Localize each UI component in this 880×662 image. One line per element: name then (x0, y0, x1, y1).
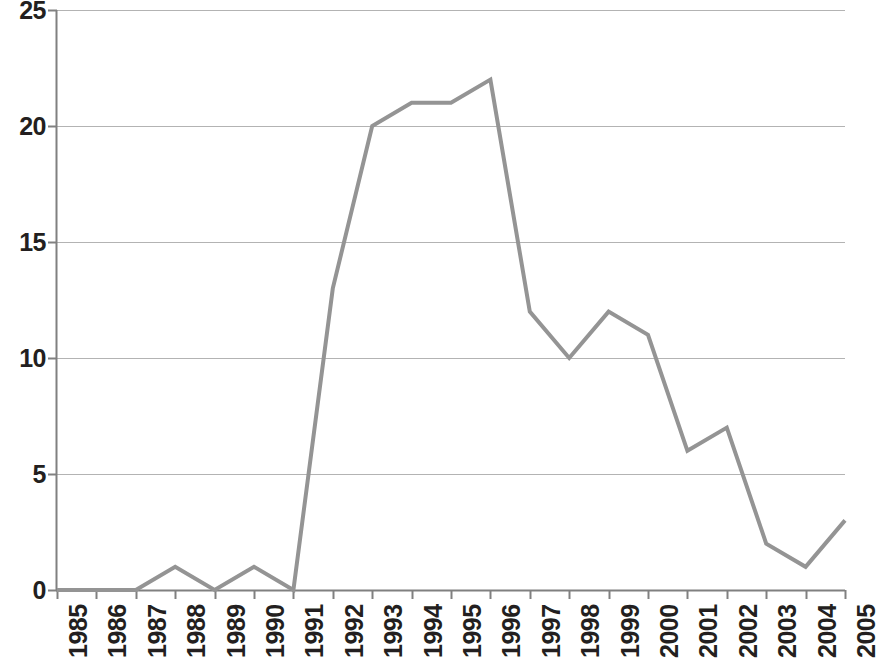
x-tick-label-1985: 1985 (66, 604, 91, 658)
x-tick-label-1986: 1986 (105, 604, 130, 658)
x-tick-label-1997: 1997 (539, 604, 564, 658)
x-tick-label-1990: 1990 (263, 604, 288, 658)
x-tick-label-1992: 1992 (342, 604, 367, 658)
x-tick-label-2004: 2004 (815, 604, 840, 658)
x-tick-label-1996: 1996 (499, 604, 524, 658)
x-tick-label-1987: 1987 (145, 604, 170, 658)
x-tick-label-1998: 1998 (578, 604, 603, 658)
x-tick-label-2005: 2005 (854, 604, 879, 658)
x-tick-label-2003: 2003 (775, 604, 800, 658)
x-tick-label-1993: 1993 (381, 604, 406, 658)
x-tick-label-1988: 1988 (184, 604, 209, 658)
x-tick-label-1994: 1994 (421, 604, 446, 658)
x-tick-label-2001: 2001 (696, 604, 721, 658)
x-tick-label-2000: 2000 (657, 604, 682, 658)
x-tick-label-1989: 1989 (224, 604, 249, 658)
x-tick-label-1991: 1991 (302, 604, 327, 658)
x-tick-label-2002: 2002 (736, 604, 761, 658)
x-tick-label-1999: 1999 (618, 604, 643, 658)
x-tick-label-1995: 1995 (460, 604, 485, 658)
